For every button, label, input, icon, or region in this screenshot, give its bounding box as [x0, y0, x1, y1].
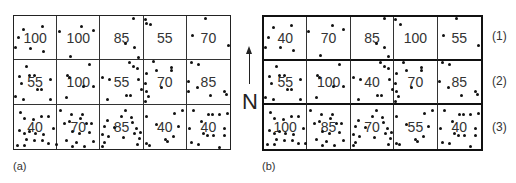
point-dot	[375, 42, 378, 45]
point-dot	[302, 127, 305, 130]
point-dot	[132, 65, 135, 68]
point-dot	[218, 113, 221, 116]
cell-a-r1c2: 100	[57, 16, 100, 60]
point-dot	[223, 127, 226, 130]
point-dot	[59, 109, 62, 112]
point-dot	[14, 95, 17, 98]
point-dot	[148, 144, 151, 147]
point-dot	[47, 142, 50, 145]
point-dot	[181, 109, 184, 112]
point-dot	[273, 132, 276, 135]
cell-value: 85	[351, 30, 393, 46]
cell-b-r2c2: 100	[307, 61, 350, 105]
point-dot	[275, 138, 278, 141]
point-dot	[88, 63, 91, 66]
point-dot	[386, 127, 389, 130]
point-dot	[458, 113, 461, 116]
point-dot	[79, 117, 82, 120]
point-dot	[28, 130, 31, 133]
point-dot	[331, 113, 334, 116]
cell-a-r1c4: 55	[144, 16, 187, 60]
point-dot	[166, 140, 169, 143]
point-dot	[315, 138, 318, 141]
cell-a-r1c5: 70	[187, 16, 230, 60]
point-dot	[297, 142, 300, 145]
point-dot	[14, 46, 17, 49]
point-dot	[439, 127, 442, 130]
point-dot	[272, 26, 275, 29]
point-dot	[41, 25, 44, 28]
point-dot	[469, 113, 472, 116]
cell-value: 55	[100, 74, 142, 90]
point-dot	[476, 93, 479, 96]
point-dot	[290, 24, 293, 27]
point-dot	[398, 143, 401, 146]
point-dot	[397, 95, 400, 98]
point-dot	[190, 141, 193, 144]
point-dot	[22, 98, 25, 101]
point-dot	[354, 125, 357, 128]
point-dot	[136, 67, 139, 70]
cell-a-r3c2: 70	[57, 105, 100, 149]
grid-panel-b: 40 70 85 100 55 55 100 40 70 85 100 85 7…	[262, 15, 483, 151]
point-dot	[290, 115, 293, 118]
cell-a-r3c4: 40	[144, 105, 187, 149]
point-dot	[383, 17, 386, 20]
point-dot	[71, 145, 74, 148]
point-dot	[383, 46, 386, 49]
point-dot	[453, 132, 456, 135]
point-dot	[390, 131, 393, 134]
point-dot	[319, 54, 322, 57]
point-dot	[405, 69, 408, 72]
point-dot	[264, 46, 267, 49]
point-dot	[52, 127, 55, 130]
point-dot	[25, 138, 28, 141]
point-dot	[394, 100, 397, 103]
point-dot	[291, 139, 294, 142]
point-dot	[204, 17, 207, 20]
point-dot	[106, 98, 109, 101]
point-dot	[383, 65, 386, 68]
point-dot	[80, 25, 83, 28]
point-dot	[422, 135, 425, 138]
point-dot	[200, 120, 203, 123]
point-dot	[36, 88, 39, 91]
cell-b-r3c1: 100	[264, 105, 307, 149]
point-dot	[190, 61, 193, 64]
cell-b-r1c5: 55	[438, 17, 481, 61]
cell-a-r2c4: 70	[144, 60, 187, 104]
point-dot	[122, 136, 125, 139]
point-dot	[325, 140, 328, 143]
point-dot	[358, 135, 361, 138]
point-dot	[32, 118, 35, 121]
point-dot	[129, 94, 132, 97]
point-dot	[420, 69, 423, 72]
point-dot	[19, 111, 22, 114]
point-dot	[331, 24, 334, 27]
point-dot	[359, 78, 362, 81]
point-dot	[381, 116, 384, 119]
point-dot	[282, 118, 285, 121]
point-dot	[273, 143, 276, 146]
point-dot	[34, 132, 37, 135]
point-dot	[382, 121, 385, 124]
cell-value: 85	[100, 29, 142, 45]
point-dot	[455, 17, 458, 20]
cell-value: 55	[438, 30, 481, 46]
point-dot	[65, 96, 68, 99]
cell-b-r2c4: 70	[394, 61, 437, 105]
point-dot	[462, 113, 465, 116]
cell-a-r1c3: 85	[100, 16, 143, 60]
cell-a-r2c5: 85	[187, 60, 230, 104]
point-dot	[275, 65, 278, 68]
cell-value: 70	[394, 74, 436, 90]
point-dot	[197, 63, 200, 66]
point-dot	[371, 115, 374, 118]
point-dot	[125, 94, 128, 97]
point-dot	[264, 96, 267, 99]
point-dot	[448, 142, 451, 145]
cell-a-r1c1: 100	[14, 16, 57, 60]
point-dot	[364, 126, 367, 129]
cell-a-r3c5: 40	[187, 105, 230, 149]
point-dot	[469, 145, 472, 148]
